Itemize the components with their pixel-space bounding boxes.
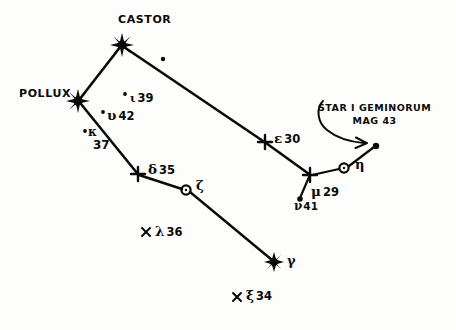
annotation-line-1: STAR I GEMINORUM bbox=[318, 102, 431, 115]
line-delta-zeta bbox=[139, 175, 182, 189]
line-mu-nu bbox=[300, 177, 309, 198]
label-upsilon-42: υ42 bbox=[107, 107, 134, 123]
star-marker-xi34 bbox=[233, 293, 241, 301]
label-lambda-greek: λ bbox=[155, 223, 164, 239]
label-eta: η bbox=[355, 158, 364, 171]
annotation-one-geminorum: STAR I GEMINORUM MAG 43 bbox=[318, 102, 431, 128]
label-mu-29: μ29 bbox=[311, 183, 339, 199]
label-mu-flamsteed: 29 bbox=[323, 185, 339, 199]
star-marker-kappa37 bbox=[83, 129, 87, 133]
label-castor: CASTOR bbox=[118, 14, 171, 25]
label-xi-greek: ξ bbox=[246, 287, 254, 303]
label-xi-34: ξ34 bbox=[246, 287, 272, 303]
label-iota-39: ι39 bbox=[130, 89, 154, 105]
label-lambda-flamsteed: 36 bbox=[166, 225, 182, 239]
constellation-lines bbox=[79, 46, 374, 260]
line-epsilon-mu bbox=[266, 143, 309, 174]
label-lambda-36: λ36 bbox=[155, 223, 182, 239]
label-kappa-greek: κ bbox=[88, 125, 110, 139]
annotation-line-2: MAG 43 bbox=[318, 115, 431, 128]
label-nu-greek: ν bbox=[294, 199, 302, 213]
label-epsilon-30: ε30 bbox=[274, 130, 300, 146]
star-marker-gamma bbox=[264, 252, 284, 272]
line-pollux-castor bbox=[79, 46, 121, 100]
label-delta-35: δ35 bbox=[148, 161, 175, 177]
label-upsilon-flamsteed: 42 bbox=[118, 109, 134, 123]
label-kappa-37: κ 37 bbox=[88, 125, 110, 152]
star-marker-castor bbox=[110, 33, 134, 57]
label-delta-greek: δ bbox=[148, 161, 157, 177]
label-nu-41: ν41 bbox=[294, 200, 318, 212]
star-marker-one-gem bbox=[373, 143, 379, 149]
label-upsilon-greek: υ bbox=[107, 107, 116, 123]
label-gamma: γ bbox=[287, 254, 296, 267]
label-nu-flamsteed: 41 bbox=[303, 200, 318, 212]
star-chart-canvas: CASTOR POLLUX γ ζ η δ35 ε30 μ29 ν41 λ36 … bbox=[0, 0, 456, 330]
star-marker-iota39 bbox=[123, 92, 127, 96]
label-zeta: ζ bbox=[196, 179, 204, 192]
label-iota-greek: ι bbox=[130, 91, 136, 105]
label-kappa-flamsteed: 37 bbox=[93, 138, 110, 152]
label-iota-flamsteed: 39 bbox=[138, 91, 154, 105]
star-marker-upsilon42 bbox=[101, 110, 105, 114]
star-marker-faint-dot bbox=[161, 57, 165, 61]
star-marker-zeta bbox=[181, 185, 190, 194]
label-delta-flamsteed: 35 bbox=[159, 163, 175, 177]
label-pollux: POLLUX bbox=[19, 88, 71, 99]
label-epsilon-flamsteed: 30 bbox=[284, 132, 300, 146]
line-zeta-gamma bbox=[190, 192, 272, 260]
label-epsilon-greek: ε bbox=[274, 130, 282, 146]
label-xi-flamsteed: 34 bbox=[256, 289, 272, 303]
star-marker-lambda36 bbox=[142, 228, 150, 236]
star-marker-eta bbox=[339, 163, 348, 172]
constellation-svg bbox=[0, 0, 456, 330]
label-mu-greek: μ bbox=[311, 183, 321, 199]
